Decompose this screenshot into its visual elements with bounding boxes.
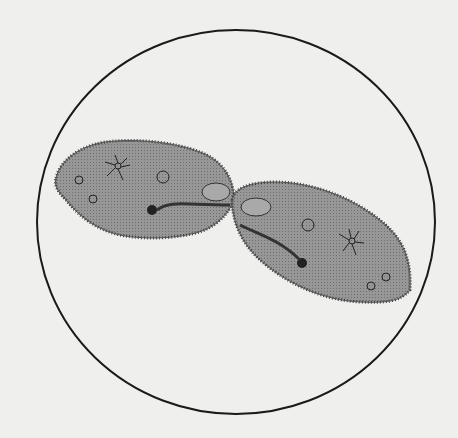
macronucleus-left bbox=[202, 183, 230, 201]
paramecium-right bbox=[232, 182, 410, 302]
diagram-canvas bbox=[0, 0, 458, 438]
macronucleus-right bbox=[241, 198, 271, 216]
paramecium-left bbox=[55, 140, 234, 238]
oral-groove-left bbox=[147, 205, 157, 215]
